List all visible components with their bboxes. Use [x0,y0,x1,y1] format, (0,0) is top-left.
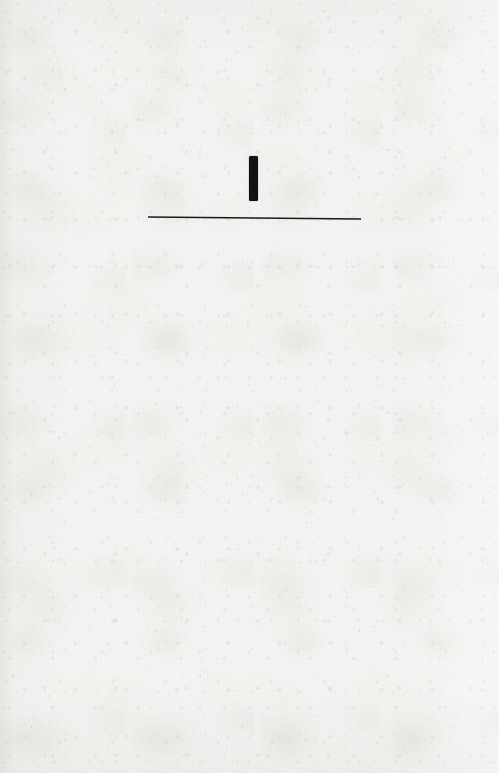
ink-mark-group [0,0,499,773]
paper-page [0,0,499,773]
vertical-stroke-mark [249,156,258,201]
horizontal-rule-svg [148,216,361,220]
rule-line [149,217,361,219]
horizontal-rule-mark [148,216,361,220]
